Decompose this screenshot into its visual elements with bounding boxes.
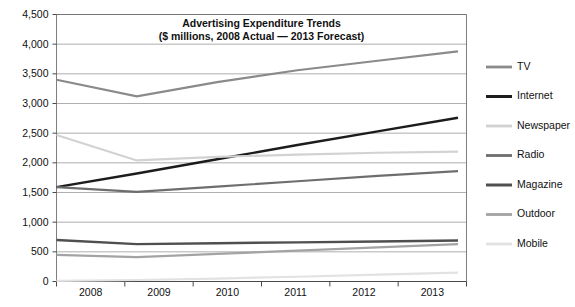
chart-legend: TVInternetNewspaperRadioMagazineOutdoorM…	[486, 60, 571, 249]
legend-label-internet: Internet	[517, 89, 553, 101]
legend-label-newspaper: Newspaper	[517, 119, 571, 131]
series-line-outdoor	[57, 244, 459, 257]
x-axis-tick-label: 2009	[147, 286, 171, 298]
y-axis-tick-label: 500	[31, 245, 49, 257]
y-axis-tick-label: 4,500	[22, 8, 48, 20]
y-axis-tick-label: 1,500	[22, 186, 48, 198]
legend-label-outdoor: Outdoor	[517, 207, 555, 219]
chart-title: Advertising Expenditure Trends ($ millio…	[159, 17, 365, 42]
y-axis-tick-label: 1,000	[22, 216, 48, 228]
y-axis-tick-label: 2,000	[22, 156, 48, 168]
y-axis-tick-label: 3,000	[22, 97, 48, 109]
x-axis-tick-label: 2012	[352, 286, 376, 298]
x-axis-tick-labels: 200820092010201120122013	[57, 282, 467, 298]
y-axis-tick-label: 3,500	[22, 67, 48, 79]
series-line-newspaper	[57, 135, 459, 161]
series-line-mobile	[57, 273, 459, 281]
series-line-magazine	[57, 240, 459, 244]
x-axis-tick-label: 2010	[216, 286, 240, 298]
x-axis-tick-label: 2011	[284, 286, 307, 298]
chart-subtitle: ($ millions, 2008 Actual — 2013 Forecast…	[159, 30, 365, 42]
advertising-expenditure-chart: 05001,0001,5002,0002,5003,0003,5004,0004…	[0, 0, 575, 307]
chart-canvas: 05001,0001,5002,0002,5003,0003,5004,0004…	[0, 0, 575, 307]
y-axis-tick-label: 0	[43, 275, 49, 287]
data-series	[57, 51, 459, 281]
series-line-radio	[57, 171, 459, 192]
legend-label-mobile: Mobile	[517, 237, 548, 249]
legend-label-radio: Radio	[517, 148, 545, 160]
legend-label-tv: TV	[517, 60, 530, 72]
chart-title-main: Advertising Expenditure Trends	[182, 17, 341, 29]
legend-label-magazine: Magazine	[517, 178, 563, 190]
x-axis-tick-label: 2008	[79, 286, 103, 298]
y-axis-tick-labels: 05001,0001,5002,0002,5003,0003,5004,0004…	[22, 8, 56, 287]
y-axis-tick-label: 4,000	[22, 38, 48, 50]
x-axis-tick-label: 2013	[421, 286, 445, 298]
y-axis-tick-label: 2,500	[22, 127, 48, 139]
